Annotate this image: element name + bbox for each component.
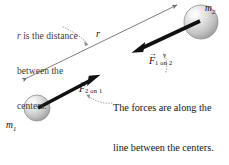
force-1-on-2-label: →F1 on 2 [149, 55, 172, 67]
force-1-on-2-symbol: →F [149, 55, 155, 67]
mass-2-label: m2 [205, 3, 215, 16]
distance-callout-line-3: centers. [17, 101, 78, 113]
force-1-on-2-subscript: 1 on 2 [155, 59, 172, 66]
body-paragraph-text: The forces are along the line between th… [113, 74, 229, 165]
physics-figure: r is the distance between the centers. T… [0, 0, 229, 165]
mass-1-label: m1 [6, 120, 16, 133]
mass-1-subscript: 1 [13, 125, 16, 132]
distance-r-label: r [96, 28, 100, 40]
force-vector-1-on-2 [132, 21, 201, 53]
body-line-1: The forces are along the [113, 101, 229, 114]
force-2-on-1-label: →F2 on 1 [79, 83, 102, 95]
leader-to-force-2-on-1 [86, 95, 112, 104]
force-2-on-1-subscript: 2 on 1 [85, 87, 102, 94]
mass-2-subscript: 2 [212, 8, 215, 15]
distance-callout-line-1: r is the distance [17, 31, 78, 43]
body-line-2: line between the centers. [113, 141, 229, 154]
mass-2-symbol: m [205, 3, 212, 13]
distance-callout-line-1-rest: is the distance [21, 31, 78, 41]
vector-accent-icon: → [149, 50, 157, 58]
mass-1-symbol: m [6, 120, 13, 130]
distance-callout-line-2: between the [17, 66, 78, 78]
force-2-on-1-symbol: →F [79, 83, 85, 95]
distance-callout-text: r is the distance between the centers. [17, 8, 78, 135]
vector-accent-icon: → [79, 78, 87, 86]
